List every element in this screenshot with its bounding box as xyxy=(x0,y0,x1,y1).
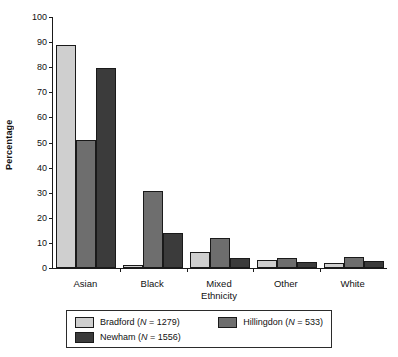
y-tick-label: 80 xyxy=(37,62,47,72)
y-tick-label: 20 xyxy=(37,213,47,223)
y-tick-label: 40 xyxy=(37,163,47,173)
bar-hillingdon-white xyxy=(344,257,364,268)
x-category-label-asian: Asian xyxy=(74,278,98,289)
bar-group-asian xyxy=(53,17,120,268)
bar-hillingdon-other xyxy=(277,258,297,268)
bar-group-white xyxy=(320,17,387,268)
y-tick-label: 70 xyxy=(37,87,47,97)
bar-newham-white xyxy=(364,261,384,268)
bar-group-other xyxy=(253,17,320,268)
x-tick xyxy=(320,268,321,272)
x-axis-title: Ethnicity xyxy=(201,290,237,301)
bar-bradford-black xyxy=(123,265,143,268)
legend-row: Newham (N = 1556) xyxy=(75,330,323,345)
x-tick xyxy=(187,268,188,272)
x-category-label-black: Black xyxy=(141,278,164,289)
y-tick-label: 50 xyxy=(37,138,47,148)
bar-hillingdon-mixed xyxy=(210,238,230,268)
y-tick-label: 30 xyxy=(37,188,47,198)
bar-bradford-mixed xyxy=(190,252,210,268)
y-tick-label: 0 xyxy=(42,263,47,273)
x-category-label-other: Other xyxy=(274,278,298,289)
bar-group-mixed xyxy=(187,17,254,268)
x-category-label-white: White xyxy=(340,278,364,289)
x-tick xyxy=(120,268,121,272)
x-tick xyxy=(253,268,254,272)
axes: 0102030405060708090100 xyxy=(52,17,387,269)
plot-area: Percentage 0102030405060708090100 AsianB… xyxy=(0,0,398,300)
y-axis-title: Percentage xyxy=(2,100,16,190)
bar-newham-mixed xyxy=(230,258,250,268)
legend-swatch-bradford xyxy=(75,317,94,328)
x-category-label-mixed: Mixed xyxy=(206,278,231,289)
legend-item-newham: Newham (N = 1556) xyxy=(75,332,223,343)
legend-label-bradford: Bradford (N = 1279) xyxy=(100,317,180,328)
legend-swatch-newham xyxy=(75,332,94,343)
legend-item-bradford: Bradford (N = 1279) xyxy=(75,317,218,328)
legend-swatch-hillingdon xyxy=(218,317,237,328)
legend: Bradford (N = 1279) Hillingdon (N = 533)… xyxy=(66,310,332,348)
bar-hillingdon-black xyxy=(143,191,163,268)
legend-label-newham: Newham (N = 1556) xyxy=(100,332,181,343)
bar-newham-asian xyxy=(96,68,116,268)
y-tick-label: 10 xyxy=(37,238,47,248)
y-tick-label: 60 xyxy=(37,112,47,122)
bar-bradford-white xyxy=(324,263,344,268)
y-tick xyxy=(49,268,53,269)
legend-item-hillingdon: Hillingdon (N = 533) xyxy=(218,317,323,328)
bar-newham-black xyxy=(163,233,183,268)
bar-newham-other xyxy=(297,262,317,268)
legend-row: Bradford (N = 1279) Hillingdon (N = 533) xyxy=(75,315,323,330)
bar-hillingdon-asian xyxy=(76,140,96,269)
bar-chart-figure: Percentage 0102030405060708090100 AsianB… xyxy=(0,0,398,357)
bar-group-black xyxy=(120,17,187,268)
y-tick-label: 100 xyxy=(32,12,47,22)
bar-bradford-other xyxy=(257,260,277,268)
legend-label-hillingdon: Hillingdon (N = 533) xyxy=(243,317,323,328)
bar-bradford-asian xyxy=(56,45,76,268)
y-tick-label: 90 xyxy=(37,37,47,47)
